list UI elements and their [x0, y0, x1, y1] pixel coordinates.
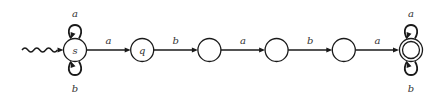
state-label: q: [139, 45, 145, 56]
self-loop-s-top: [69, 25, 81, 39]
automaton-diagram: sq ababaabab: [0, 0, 444, 96]
state-n3: [198, 39, 221, 62]
state-s: s: [64, 39, 87, 62]
self-loop-label-f-top: a: [408, 8, 414, 19]
self-loop-arrowhead-s-bottom: [71, 62, 76, 69]
self-loop-label-s-top: a: [72, 8, 78, 19]
state-circle: [198, 39, 221, 62]
state-q: q: [131, 39, 154, 62]
transition-arrowhead-s-q: [125, 47, 131, 52]
state-circle: [265, 39, 288, 62]
self-loop-arrowhead-f-top: [407, 32, 412, 39]
state-circle: [332, 39, 355, 62]
transition-arrowhead-q-n3: [192, 47, 198, 52]
transition-arrowhead-n3-n4: [259, 47, 265, 52]
state-n4: [265, 39, 288, 62]
self-loop-arrowhead-f-bottom: [407, 62, 412, 69]
transition-label-q-n3: b: [173, 35, 179, 46]
transition-arrowhead-n5-f: [393, 47, 399, 52]
start-arrow-wavy: [22, 48, 58, 52]
transition-label-n4-n5: b: [307, 35, 313, 46]
self-loop-f-bottom: [405, 62, 417, 76]
state-n5: [332, 39, 355, 62]
transition-arrowhead-n4-n5: [326, 47, 332, 52]
self-loop-s-bottom: [69, 62, 81, 76]
self-loop-label-f-bottom: b: [408, 83, 414, 94]
transition-label-n5-f: a: [374, 35, 380, 46]
self-loop-label-s-bottom: b: [72, 83, 78, 94]
state-label: s: [72, 45, 77, 56]
state-f: [400, 39, 423, 62]
transition-label-n3-n4: a: [240, 35, 246, 46]
accepting-inner-circle: [403, 42, 420, 59]
self-loop-arrowhead-s-top: [71, 32, 76, 39]
self-loop-f-top: [405, 25, 417, 39]
start-arrowhead: [58, 47, 64, 52]
transition-label-s-q: a: [106, 35, 112, 46]
